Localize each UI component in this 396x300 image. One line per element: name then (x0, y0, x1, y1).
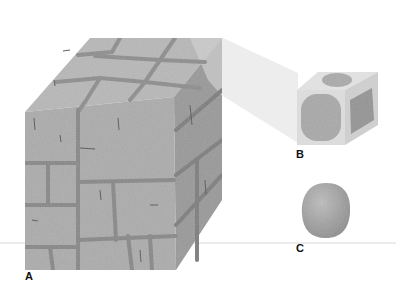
label-c: C (296, 242, 304, 254)
cube-b-front-blob (301, 94, 341, 141)
label-b: B (296, 148, 304, 160)
label-a: A (25, 270, 33, 282)
ball-c-shape (302, 183, 350, 238)
cube-b-top-blob (322, 73, 352, 87)
stone-block-diagram: A B C (0, 0, 396, 300)
cube-b (297, 72, 378, 145)
ball-c (302, 183, 350, 238)
cube-a (25, 38, 222, 270)
